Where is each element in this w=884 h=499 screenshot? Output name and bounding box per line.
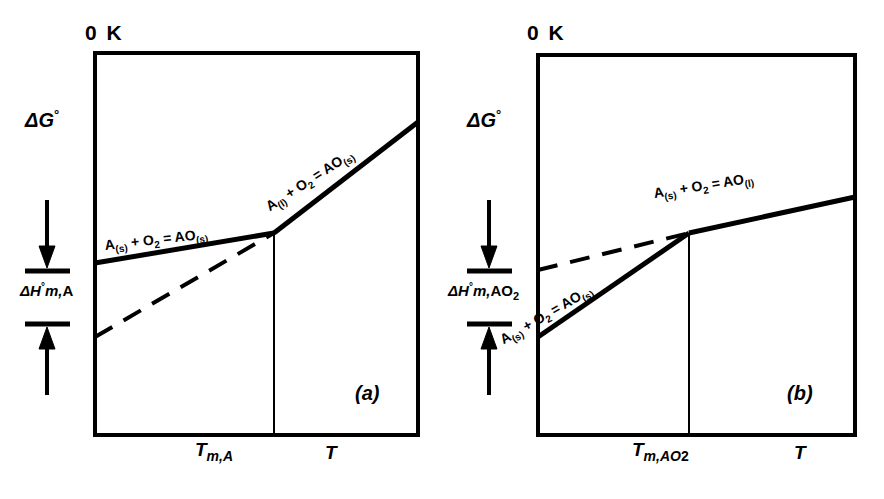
curve-b-2	[689, 197, 855, 233]
curve-a-2	[274, 122, 418, 233]
ellingham-figure: 0 K ΔG° ΔH°m,A Tm,A T (a) A(s) + O2 = AO…	[0, 0, 884, 499]
plot-frame-a	[95, 53, 418, 435]
panel-b-graphics	[442, 0, 884, 499]
curve-b-1	[538, 233, 689, 337]
panel-a-graphics	[0, 0, 442, 499]
plot-frame-b	[538, 55, 855, 435]
enthalpy-bracket-b	[467, 200, 512, 395]
chart-panel-a: 0 K ΔG° ΔH°m,A Tm,A T (a) A(s) + O2 = AO…	[0, 0, 442, 499]
chart-panel-b: 0 K ΔG° ΔH°m,AO2 Tm,AO2 T (b) A(s) + O2 …	[442, 0, 884, 499]
enthalpy-bracket-a	[25, 200, 70, 395]
